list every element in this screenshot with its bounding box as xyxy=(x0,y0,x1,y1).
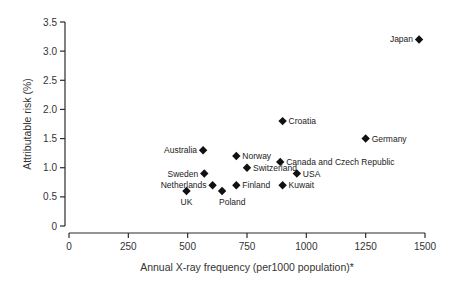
data-point: Croatia xyxy=(278,116,316,126)
data-points: JapanCroatiaGermanyAustraliaNorwayCanada… xyxy=(161,34,424,207)
data-point: Australia xyxy=(164,145,207,155)
y-tick-label: 2.0 xyxy=(43,104,57,115)
diamond-marker-icon xyxy=(361,134,369,142)
diamond-marker-icon xyxy=(218,187,226,195)
x-tick-label: 250 xyxy=(120,241,137,252)
data-point: Germany xyxy=(361,134,407,144)
point-label: Japan xyxy=(390,34,413,44)
point-label: USA xyxy=(303,169,321,179)
point-label: Sweden xyxy=(168,169,199,179)
point-label: Australia xyxy=(164,145,197,155)
y-tick-label: 1.0 xyxy=(43,162,57,173)
data-point: Norway xyxy=(232,151,272,161)
y-tick-label: 0 xyxy=(51,221,57,232)
data-point: Netherlands xyxy=(161,180,217,190)
point-label: Norway xyxy=(242,151,272,161)
diamond-marker-icon xyxy=(199,146,207,154)
point-label: Netherlands xyxy=(161,180,207,190)
point-label: UK xyxy=(181,197,193,207)
point-label: Switzerland xyxy=(253,163,297,173)
data-point: Finland xyxy=(232,180,270,190)
point-label: Canada and Czech Republic xyxy=(286,157,395,167)
y-tick-label: 2.5 xyxy=(43,75,57,86)
y-axis: 00.51.01.52.02.53.03.5 xyxy=(43,17,65,232)
diamond-marker-icon xyxy=(232,181,240,189)
x-axis: 0250500750100012501500 xyxy=(66,233,436,252)
data-point: Japan xyxy=(390,34,423,44)
scatter-chart: 00.51.01.52.02.53.03.5 02505007501000125… xyxy=(0,0,455,283)
diamond-marker-icon xyxy=(415,35,423,43)
diamond-marker-icon xyxy=(232,152,240,160)
x-tick-label: 750 xyxy=(239,241,256,252)
diamond-marker-icon xyxy=(278,181,286,189)
y-tick-label: 1.5 xyxy=(43,133,57,144)
point-label: Poland xyxy=(219,197,246,207)
x-axis-title: Annual X-ray frequency (per1000 populati… xyxy=(140,261,354,273)
point-label: Croatia xyxy=(289,116,317,126)
y-tick-label: 3.5 xyxy=(43,17,57,28)
diamond-marker-icon xyxy=(200,169,208,177)
y-tick-label: 0.5 xyxy=(43,191,57,202)
chart-canvas: 00.51.01.52.02.53.03.5 02505007501000125… xyxy=(0,0,455,283)
x-tick-label: 1250 xyxy=(355,241,378,252)
data-point: Kuwait xyxy=(278,180,314,190)
data-point: Sweden xyxy=(168,169,209,179)
y-tick-label: 3.0 xyxy=(43,46,57,57)
point-label: Germany xyxy=(372,134,408,144)
diamond-marker-icon xyxy=(278,117,286,125)
diamond-marker-icon xyxy=(208,181,216,189)
x-tick-label: 500 xyxy=(179,241,196,252)
diamond-marker-icon xyxy=(243,164,251,172)
point-label: Kuwait xyxy=(289,180,315,190)
point-label: Finland xyxy=(242,180,270,190)
y-axis-title: Attributable risk (%) xyxy=(21,78,33,170)
x-tick-label: 1500 xyxy=(414,241,437,252)
x-tick-label: 1000 xyxy=(295,241,318,252)
data-point: Switzerland xyxy=(243,163,297,173)
data-point: USA xyxy=(293,169,321,179)
x-tick-label: 0 xyxy=(66,241,72,252)
